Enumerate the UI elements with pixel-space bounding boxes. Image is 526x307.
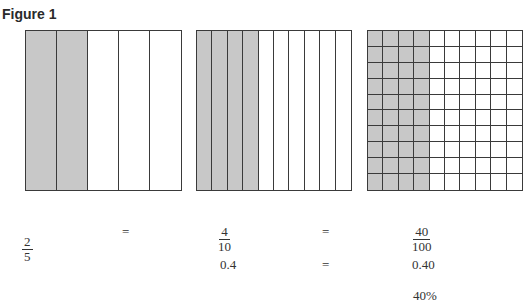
unshaded-cell — [336, 31, 351, 190]
shaded-cell — [57, 31, 88, 190]
shaded-cell — [399, 47, 414, 63]
shaded-cell — [399, 79, 414, 95]
shaded-cell — [383, 158, 398, 174]
shaded-cell — [399, 63, 414, 79]
fraction-four-tenths: 410 — [218, 224, 231, 254]
unshaded-cell — [491, 142, 506, 158]
unshaded-cell — [430, 79, 445, 95]
unshaded-cell — [507, 126, 522, 142]
equals-sign: = — [122, 224, 129, 240]
shaded-cell — [414, 158, 429, 174]
shaded-cell — [368, 63, 383, 79]
unshaded-cell — [476, 47, 491, 63]
unshaded-cell — [491, 110, 506, 126]
shaded-cell — [383, 126, 398, 142]
unshaded-cell — [491, 63, 506, 79]
shaded-cell — [368, 95, 383, 111]
unshaded-cell — [150, 31, 181, 190]
shaded-cell — [383, 110, 398, 126]
shaded-cell — [368, 79, 383, 95]
unshaded-cell — [491, 47, 506, 63]
shaded-cell — [368, 110, 383, 126]
unshaded-cell — [445, 174, 460, 190]
shaded-cell — [399, 158, 414, 174]
unshaded-cell — [445, 158, 460, 174]
shaded-cell — [368, 47, 383, 63]
shaded-cell — [414, 110, 429, 126]
unshaded-cell — [289, 31, 304, 190]
shaded-cell — [414, 142, 429, 158]
unshaded-cell — [445, 142, 460, 158]
unshaded-cell — [430, 63, 445, 79]
shaded-cell — [399, 31, 414, 47]
unshaded-cell — [476, 79, 491, 95]
shaded-cell — [243, 31, 258, 190]
unshaded-cell — [445, 110, 460, 126]
unshaded-cell — [445, 47, 460, 63]
unshaded-cell — [476, 110, 491, 126]
shaded-cell — [368, 31, 383, 47]
fraction-two-fifths: 25 — [22, 234, 33, 264]
shaded-cell — [383, 79, 398, 95]
unshaded-cell — [476, 126, 491, 142]
shaded-cell — [228, 31, 243, 190]
unshaded-cell — [507, 47, 522, 63]
unshaded-cell — [491, 126, 506, 142]
shaded-cell — [383, 63, 398, 79]
hundredths-grid-model — [367, 30, 523, 191]
unshaded-cell — [445, 63, 460, 79]
shaded-cell — [368, 142, 383, 158]
shaded-cell — [368, 126, 383, 142]
shaded-cell — [383, 142, 398, 158]
shaded-cell — [26, 31, 57, 190]
unshaded-cell — [274, 31, 289, 190]
unshaded-cell — [259, 31, 274, 190]
unshaded-cell — [320, 31, 335, 190]
unshaded-cell — [119, 31, 150, 190]
percent-40: 40% — [413, 288, 437, 304]
unshaded-cell — [460, 142, 475, 158]
unshaded-cell — [445, 126, 460, 142]
unshaded-cell — [507, 31, 522, 47]
unshaded-cell — [430, 126, 445, 142]
unshaded-cell — [460, 79, 475, 95]
figure-title: Figure 1 — [2, 6, 56, 22]
unshaded-cell — [445, 79, 460, 95]
unshaded-cell — [507, 79, 522, 95]
shaded-cell — [212, 31, 227, 190]
unshaded-cell — [476, 31, 491, 47]
unshaded-cell — [507, 110, 522, 126]
shaded-cell — [399, 110, 414, 126]
unshaded-cell — [430, 95, 445, 111]
shaded-cell — [368, 174, 383, 190]
unshaded-cell — [476, 158, 491, 174]
unshaded-cell — [476, 95, 491, 111]
unshaded-cell — [507, 174, 522, 190]
shaded-cell — [399, 174, 414, 190]
fraction-forty-hundredths: 40100 — [412, 224, 432, 254]
tenths-model — [196, 30, 352, 191]
unshaded-cell — [476, 63, 491, 79]
unshaded-cell — [460, 126, 475, 142]
decimal-0-4: 0.4 — [220, 257, 236, 273]
shaded-cell — [399, 95, 414, 111]
unshaded-cell — [430, 174, 445, 190]
unshaded-cell — [430, 110, 445, 126]
unshaded-cell — [507, 158, 522, 174]
shaded-cell — [399, 142, 414, 158]
unshaded-cell — [460, 95, 475, 111]
decimal-0-40: 0.40 — [412, 257, 435, 273]
shaded-cell — [414, 31, 429, 47]
unshaded-cell — [460, 158, 475, 174]
shaded-cell — [414, 63, 429, 79]
unshaded-cell — [507, 95, 522, 111]
shaded-cell — [414, 79, 429, 95]
unshaded-cell — [430, 158, 445, 174]
shaded-cell — [414, 126, 429, 142]
unshaded-cell — [460, 47, 475, 63]
equals-sign: = — [322, 224, 329, 240]
unshaded-cell — [491, 95, 506, 111]
unshaded-cell — [507, 142, 522, 158]
unshaded-cell — [430, 142, 445, 158]
shaded-cell — [197, 31, 212, 190]
